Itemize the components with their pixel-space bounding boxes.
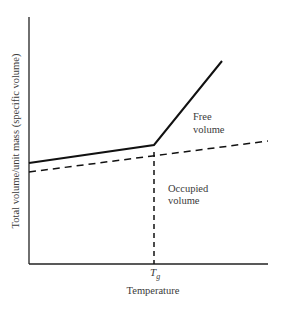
x-axis-label: Temperature [127, 285, 180, 296]
free-volume-label-line1: Free [193, 111, 212, 122]
occupied-volume-label-line1: Occupied [168, 183, 209, 194]
glass-transition-diagram: Tg Temperature Total volume/unit mass (s… [0, 0, 281, 309]
free-volume-label-line2: volume [193, 124, 225, 135]
y-axis-label: Total volume/unit mass (specific volume) [10, 53, 22, 228]
occupied-volume-label-line2: volume [168, 195, 200, 206]
tg-label: Tg [150, 266, 160, 281]
